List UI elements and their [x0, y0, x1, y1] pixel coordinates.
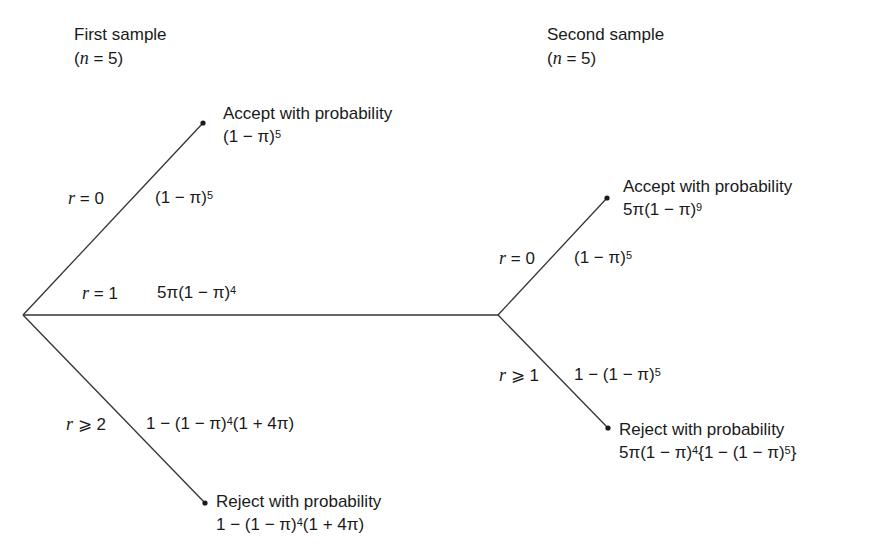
expr: } [791, 443, 797, 462]
expr: 1 − (1 − π) [216, 515, 297, 534]
var-n: n [80, 48, 89, 68]
second-accept-expr: 5π(1 − π)9 [623, 200, 702, 220]
expr: {1 − (1 − π) [698, 443, 784, 462]
expr: 5π(1 − π) [619, 443, 692, 462]
edge-first-r2 [23, 315, 205, 503]
node-second-accept-dot [604, 195, 609, 200]
first-branch-r1-probability: 5π(1 − π)4 [157, 283, 236, 303]
exponent: 4 [297, 516, 303, 528]
first-accept-expr: (1 − π)5 [223, 127, 281, 147]
expr: (1 − π) [155, 188, 207, 207]
var-r: r [499, 248, 506, 268]
tree-edges [0, 0, 870, 559]
second-accept-label: Accept with probability [623, 177, 792, 197]
first-reject-label: Reject with probability [216, 492, 381, 512]
second-reject-label: Reject with probability [619, 420, 784, 440]
second-branch-r1-condition: r ⩾ 1 [499, 365, 539, 386]
n-value: = 5) [562, 49, 597, 68]
expr: 5π(1 − π) [623, 200, 696, 219]
exponent: 5 [785, 444, 791, 456]
expr: (1 + 4π) [233, 414, 294, 433]
expr: 5π(1 − π) [157, 283, 230, 302]
cond: ⩾ 2 [73, 415, 106, 434]
first-branch-r0-condition: r = 0 [68, 188, 104, 209]
exponent: 5 [207, 189, 213, 201]
second-branch-r0-probability: (1 − π)5 [574, 248, 632, 268]
var-r: r [82, 283, 89, 303]
node-second-reject-dot [605, 425, 610, 430]
node-first-reject-dot [202, 500, 207, 505]
exponent: 4 [692, 444, 698, 456]
second-sample-size: (n = 5) [547, 48, 596, 69]
var-r: r [66, 414, 73, 434]
cond: = 1 [89, 284, 118, 303]
cond: ⩾ 1 [506, 366, 539, 385]
exponent: 5 [275, 128, 281, 140]
var-n: n [553, 48, 562, 68]
first-branch-r1-condition: r = 1 [82, 283, 118, 304]
first-branch-r0-probability: (1 − π)5 [155, 188, 213, 208]
second-reject-expr: 5π(1 − π)4{1 − (1 − π)5} [619, 443, 796, 463]
first-sample-title: First sample [74, 25, 167, 45]
expr: 1 − (1 − π) [574, 365, 655, 384]
second-branch-r0-condition: r = 0 [499, 248, 535, 269]
first-reject-expr: 1 − (1 − π)4(1 + 4π) [216, 515, 364, 535]
n-value: = 5) [89, 49, 124, 68]
exponent: 4 [230, 284, 236, 296]
first-accept-label: Accept with probability [223, 104, 392, 124]
cond: = 0 [75, 189, 104, 208]
exponent: 9 [696, 201, 702, 213]
var-r: r [68, 188, 75, 208]
exponent: 5 [626, 249, 632, 261]
second-branch-r1-probability: 1 − (1 − π)5 [574, 365, 661, 385]
var-r: r [499, 365, 506, 385]
expr: 1 − (1 − π) [146, 414, 227, 433]
second-sample-title: Second sample [547, 25, 664, 45]
cond: = 0 [506, 249, 535, 268]
exponent: 4 [227, 415, 233, 427]
expr: (1 + 4π) [303, 515, 364, 534]
exponent: 5 [655, 366, 661, 378]
node-first-accept-dot [200, 120, 205, 125]
first-sample-size: (n = 5) [74, 48, 123, 69]
expr: (1 − π) [223, 127, 275, 146]
first-branch-r2-condition: r ⩾ 2 [66, 414, 106, 435]
first-branch-r2-probability: 1 − (1 − π)4(1 + 4π) [146, 414, 294, 434]
expr: (1 − π) [574, 248, 626, 267]
